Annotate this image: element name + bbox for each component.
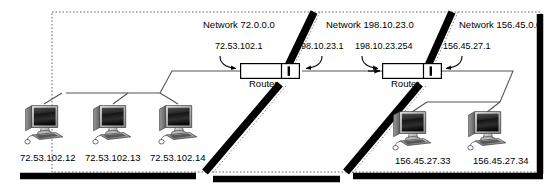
host-5[interactable] <box>468 112 506 150</box>
iface-label-r1-left: 72.53.102.1 <box>215 41 263 51</box>
router-icon <box>383 64 442 79</box>
host-1[interactable] <box>25 106 63 144</box>
router-1[interactable] <box>241 64 300 79</box>
uplink-left-router <box>160 71 240 93</box>
router-icon <box>241 64 300 79</box>
host-drop-2 <box>113 93 128 104</box>
computer-icon <box>393 112 431 150</box>
host-ip-5: 156.45.27.34 <box>473 155 528 166</box>
router-caption-2: Router <box>391 78 420 89</box>
iface-label-r2-left: 198.10.23.254 <box>355 41 413 51</box>
lan-links-left <box>44 71 240 104</box>
host-4[interactable] <box>393 112 431 150</box>
host-ip-2: 72.53.102.13 <box>85 152 140 163</box>
uplink-right-router <box>442 71 513 102</box>
computer-icon <box>468 112 506 150</box>
router-2[interactable] <box>383 64 442 79</box>
host-drop-5 <box>487 102 500 112</box>
host-3[interactable] <box>159 106 197 144</box>
network-diagram: Network 72.0.0.0 Network 198.10.23.0 Net… <box>0 0 550 189</box>
host-drop-3 <box>160 93 178 104</box>
network-title-2: Network 198.10.23.0 <box>326 19 414 30</box>
arrow-iface-r1-left <box>220 56 236 69</box>
computer-icon <box>159 106 197 144</box>
iface-label-r1-right: 198.10.23.1 <box>296 41 344 51</box>
host-ip-1: 72.53.102.12 <box>20 152 75 163</box>
boundary-bar-1-lower <box>205 84 280 172</box>
iface-label-r2-right: 156.45.27.1 <box>443 41 491 51</box>
router-caption-1: Router <box>249 78 278 89</box>
network-title-3: Network 156.45.0.0 <box>459 19 541 30</box>
boundary-bar-2-upper <box>427 12 452 68</box>
host-ip-4: 156.45.27.33 <box>395 155 450 166</box>
host-ip-3: 72.53.102.14 <box>150 152 205 163</box>
boundary-bar-1-upper <box>287 12 314 68</box>
host-2[interactable] <box>93 106 131 144</box>
network-title-1: Network 72.0.0.0 <box>203 19 275 30</box>
computer-icon <box>25 106 63 144</box>
computer-icon <box>93 106 131 144</box>
arrow-iface-r2-right <box>446 56 462 69</box>
host-drop-1 <box>44 93 62 104</box>
arrow-iface-r2-left <box>362 56 378 69</box>
host-drop-4 <box>412 102 427 112</box>
arrow-iface-r1-right <box>306 56 322 69</box>
